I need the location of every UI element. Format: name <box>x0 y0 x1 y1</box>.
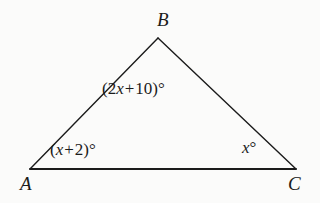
angle-label-c: x° <box>242 139 256 156</box>
angle-c-variable: x <box>242 138 250 157</box>
angle-c-degree: ° <box>250 138 257 157</box>
angle-b-coefficient: 2 <box>108 79 117 98</box>
triangle-figure <box>0 0 320 203</box>
angle-b-operator: + <box>124 79 136 98</box>
angle-b-variable: x <box>116 79 124 98</box>
angle-label-b: (2x+10)° <box>102 80 165 97</box>
angle-label-a: (x+2)° <box>50 141 96 158</box>
angle-a-operator: + <box>63 140 75 159</box>
vertex-label-a: A <box>20 174 32 193</box>
vertex-label-b: B <box>157 10 169 29</box>
angle-b-close: )° <box>152 79 164 98</box>
triangle-side-bc <box>158 38 296 169</box>
angle-b-constant: 10 <box>135 79 152 98</box>
vertex-label-c: C <box>288 174 301 193</box>
angle-a-close: )° <box>83 140 95 159</box>
